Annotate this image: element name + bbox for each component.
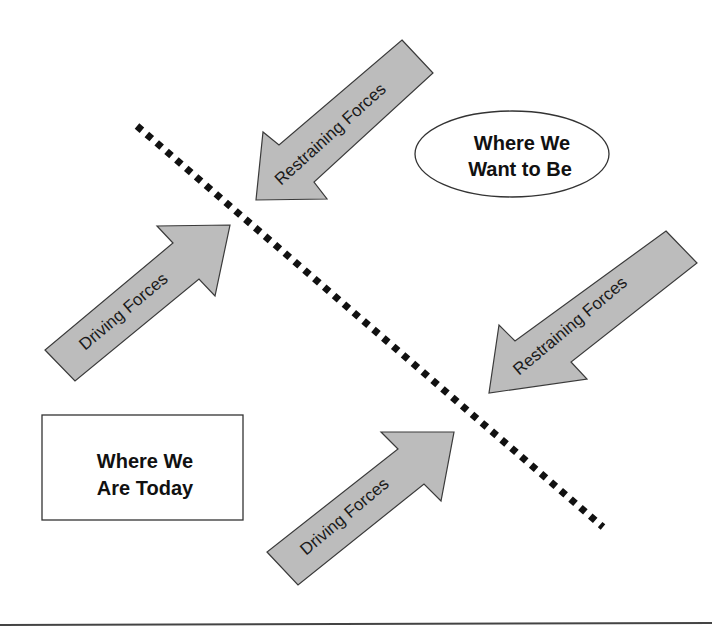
current-state-box: Where We Are Today [42, 415, 243, 520]
driving-forces-arrow-left: Driving Forces [45, 225, 230, 381]
bottom-rule [0, 623, 712, 625]
driving-forces-arrow-bottom: Driving Forces [267, 432, 454, 585]
force-field-diagram: Restraining Forces Driving Forces Restra… [0, 0, 712, 627]
desired-state-line1: Where We [474, 132, 570, 154]
current-state-line2: Are Today [97, 477, 194, 499]
desired-state-ellipse: Where We Want to Be [415, 111, 609, 197]
desired-state-line2: Want to Be [468, 158, 572, 180]
arrow-label: Restraining Forces [271, 79, 390, 189]
current-state-line1: Where We [97, 450, 193, 472]
restraining-forces-arrow-right: Restraining Forces [489, 231, 697, 393]
restraining-forces-arrow-top: Restraining Forces [256, 40, 433, 200]
